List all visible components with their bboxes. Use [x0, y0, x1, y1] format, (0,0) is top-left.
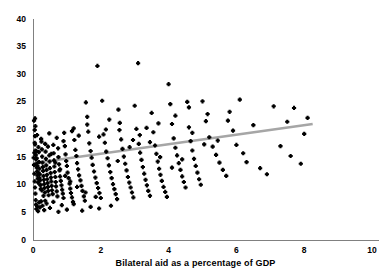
- scatter-point: [80, 209, 84, 213]
- scatter-point: [97, 206, 101, 210]
- scatter-point: [118, 121, 122, 125]
- y-tick-label: 15: [4, 153, 26, 162]
- scatter-point: [116, 159, 120, 163]
- x-tick-label: 0: [21, 246, 45, 255]
- scatter-chart: 0510152025303540 0246810 Bilateral aid a…: [0, 0, 391, 272]
- scatter-point: [77, 173, 81, 177]
- scatter-point: [292, 106, 296, 110]
- scatter-point: [195, 170, 199, 174]
- scatter-point: [177, 161, 181, 165]
- scatter-point: [93, 175, 97, 179]
- data-points: [32, 61, 310, 214]
- scatter-point: [75, 161, 79, 165]
- scatter-point: [158, 155, 162, 159]
- scatter-point: [216, 138, 220, 142]
- scatter-point: [150, 111, 154, 115]
- scatter-point: [105, 156, 109, 160]
- scatter-point: [151, 130, 155, 134]
- scatter-point: [244, 160, 248, 164]
- scatter-point: [57, 162, 61, 166]
- scatter-point: [61, 196, 65, 200]
- scatter-point: [49, 171, 53, 175]
- scatter-point: [197, 177, 201, 181]
- scatter-point: [89, 149, 93, 153]
- scatter-point: [95, 64, 99, 68]
- scatter-point: [137, 142, 141, 146]
- scatter-point: [133, 104, 137, 108]
- scatter-point: [89, 205, 93, 209]
- scatter-point: [91, 163, 95, 167]
- scatter-point: [56, 146, 60, 150]
- scatter-point: [194, 164, 198, 168]
- scatter-point: [110, 176, 114, 180]
- scatter-point: [92, 169, 96, 173]
- scatter-point: [156, 121, 160, 125]
- scatter-point: [228, 110, 232, 114]
- scatter-point: [48, 206, 52, 210]
- scatter-point: [272, 104, 276, 108]
- scatter-point: [183, 185, 187, 189]
- scatter-point: [161, 185, 165, 189]
- scatter-point: [112, 187, 116, 191]
- y-tick-label: 25: [4, 97, 26, 106]
- scatter-point: [199, 183, 203, 187]
- scatter-point: [50, 184, 54, 188]
- scatter-point: [51, 143, 55, 147]
- scatter-point: [148, 140, 152, 144]
- scatter-point: [182, 180, 186, 184]
- scatter-point: [187, 125, 191, 129]
- scatter-point: [143, 178, 147, 182]
- scatter-point: [142, 172, 146, 176]
- scatter-point: [72, 138, 76, 142]
- scatter-point: [126, 175, 130, 179]
- scatter-point: [234, 143, 238, 147]
- scatter-point: [160, 179, 164, 183]
- scatter-point: [79, 184, 83, 188]
- scatter-point: [144, 126, 148, 130]
- scatter-point: [175, 153, 179, 157]
- scatter-point: [82, 194, 86, 198]
- y-tick-label: 0: [4, 236, 26, 245]
- scatter-point: [107, 117, 111, 121]
- scatter-point: [46, 145, 50, 149]
- scatter-point: [258, 166, 262, 170]
- scatter-point: [62, 131, 66, 135]
- scatter-point: [173, 114, 177, 118]
- scatter-point: [138, 133, 142, 137]
- scatter-point: [85, 122, 89, 126]
- scatter-point: [224, 174, 228, 178]
- scatter-point: [85, 115, 89, 119]
- y-tick-label: 35: [4, 42, 26, 51]
- scatter-point: [138, 151, 142, 155]
- scatter-point: [103, 141, 107, 145]
- y-tick-label: 20: [4, 125, 26, 134]
- scatter-point: [100, 99, 104, 103]
- scatter-point: [43, 142, 47, 146]
- scatter-point: [52, 164, 56, 168]
- scatter-point: [65, 164, 69, 168]
- scatter-point: [86, 130, 90, 134]
- scatter-point: [165, 195, 169, 199]
- scatter-point: [123, 162, 127, 166]
- scatter-point: [156, 159, 160, 163]
- plot-area: [0, 0, 391, 272]
- scatter-point: [231, 129, 235, 133]
- scatter-point: [302, 132, 306, 136]
- scatter-point: [58, 174, 62, 178]
- scatter-point: [289, 154, 293, 158]
- scatter-point: [241, 151, 245, 155]
- scatter-point: [55, 194, 59, 198]
- scatter-point: [180, 157, 184, 161]
- scatter-point: [251, 123, 255, 127]
- scatter-point: [61, 139, 65, 143]
- scatter-point: [73, 148, 77, 152]
- scatter-point: [190, 131, 194, 135]
- scatter-point: [211, 145, 215, 149]
- scatter-point: [53, 170, 57, 174]
- x-tick-label: 6: [224, 246, 248, 255]
- scatter-point: [60, 188, 64, 192]
- scatter-point: [46, 193, 50, 197]
- scatter-point: [278, 144, 282, 148]
- scatter-point: [157, 167, 161, 171]
- scatter-point: [173, 146, 177, 150]
